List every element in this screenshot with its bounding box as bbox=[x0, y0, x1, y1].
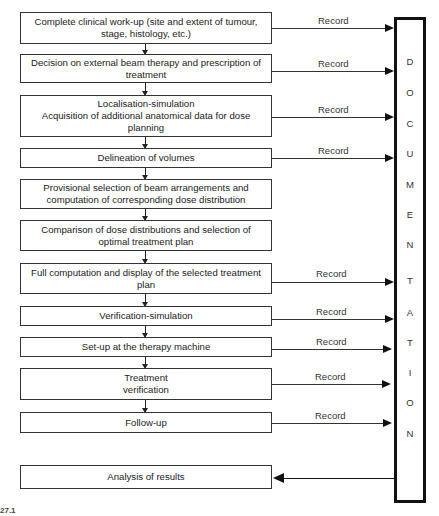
flow-arrow bbox=[145, 357, 146, 368]
step-label: Decision on external beam therapy and pr… bbox=[25, 57, 267, 81]
record-label: Record bbox=[318, 145, 349, 156]
step-analysis-of-results: Analysis of results bbox=[20, 465, 272, 489]
step-label: Full computation and display of the sele… bbox=[25, 267, 267, 291]
record-arrow bbox=[272, 282, 385, 283]
record-arrow bbox=[272, 28, 385, 29]
flow-arrow bbox=[145, 294, 146, 306]
doc-letter: I bbox=[397, 367, 423, 378]
doc-letter: O bbox=[397, 87, 423, 98]
doc-letter: T bbox=[397, 275, 423, 286]
doc-letter: A bbox=[397, 307, 423, 318]
record-arrow bbox=[272, 71, 385, 72]
doc-letter: D bbox=[397, 56, 423, 67]
flow-arrow bbox=[145, 326, 146, 337]
doc-letter: C bbox=[397, 118, 423, 129]
step-label: Complete clinical work-up (site and exte… bbox=[25, 16, 267, 40]
step-label: Comparison of dose distributions and sel… bbox=[25, 224, 267, 248]
documentation-box: D O C U M E N T A T I O N bbox=[394, 17, 426, 503]
flow-arrow bbox=[145, 168, 146, 179]
record-arrow bbox=[272, 117, 385, 118]
record-arrow bbox=[272, 384, 382, 385]
flow-arrow bbox=[145, 83, 146, 95]
step-setup: Set-up at the therapy machine bbox=[20, 337, 272, 357]
step-comparison: Comparison of dose distributions and sel… bbox=[20, 220, 272, 251]
doc-letter: N bbox=[397, 428, 423, 439]
step-label: Verification-simulation bbox=[99, 310, 192, 322]
step-follow-up: Follow-up bbox=[20, 412, 272, 433]
record-label: Record bbox=[318, 15, 349, 26]
step-label: Analysis of results bbox=[107, 471, 184, 483]
record-arrow bbox=[272, 349, 383, 350]
step-provisional-selection: Provisional selection of beam arrangemen… bbox=[20, 179, 272, 209]
step-label: Treatment verification bbox=[123, 372, 169, 396]
record-label: Record bbox=[315, 371, 346, 382]
doc-letter: M bbox=[397, 179, 423, 190]
step-localisation: Localisation-simulation Acquisition of a… bbox=[20, 95, 272, 137]
flow-arrow bbox=[145, 44, 146, 54]
record-label: Record bbox=[316, 306, 347, 317]
step-label: Delineation of volumes bbox=[97, 152, 194, 164]
step-full-computation: Full computation and display of the sele… bbox=[20, 263, 272, 294]
step-label: Provisional selection of beam arrangemen… bbox=[25, 182, 267, 206]
step-clinical-workup: Complete clinical work-up (site and exte… bbox=[20, 12, 272, 44]
doc-letter: N bbox=[397, 239, 423, 250]
record-label: Record bbox=[316, 268, 347, 279]
record-label: Record bbox=[318, 104, 349, 115]
step-label: Follow-up bbox=[125, 417, 167, 429]
step-treatment-verification: Treatment verification bbox=[20, 368, 272, 400]
record-label: Record bbox=[315, 410, 346, 421]
record-arrow bbox=[272, 319, 385, 320]
flow-arrow bbox=[145, 137, 146, 148]
step-verification-simulation: Verification-simulation bbox=[20, 306, 272, 326]
step-decision: Decision on external beam therapy and pr… bbox=[20, 54, 272, 83]
step-label: Localisation-simulation Acquisition of a… bbox=[25, 98, 267, 134]
step-label: Set-up at the therapy machine bbox=[82, 341, 211, 353]
flow-arrow bbox=[145, 251, 146, 263]
record-arrow bbox=[272, 158, 385, 159]
doc-letter: E bbox=[397, 209, 423, 220]
doc-letter: U bbox=[397, 148, 423, 159]
analysis-feedback-arrow bbox=[283, 478, 394, 479]
step-delineation: Delineation of volumes bbox=[20, 148, 272, 168]
doc-letter: O bbox=[397, 397, 423, 408]
record-label: Record bbox=[316, 336, 347, 347]
flow-arrow bbox=[145, 209, 146, 220]
figure-caption-fragment: 27.1 bbox=[0, 506, 16, 515]
flow-arrow bbox=[145, 400, 146, 412]
record-arrow bbox=[272, 423, 383, 424]
doc-letter: T bbox=[397, 337, 423, 348]
record-label: Record bbox=[318, 58, 349, 69]
